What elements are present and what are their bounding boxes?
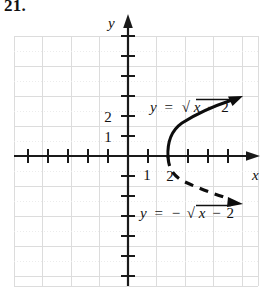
curve-lower-branch [168, 157, 243, 207]
y-tick-label-1: 1 [104, 129, 112, 145]
upper-label-equals: = [164, 99, 172, 115]
upper-label-y: y [148, 99, 157, 115]
radical-icon-lower: √ [187, 205, 196, 221]
y-tick-label-2: 2 [104, 109, 112, 125]
lower-label-sign: − [172, 205, 180, 221]
graph-figure: y x 2 1 1 2 y = √ x − 2 y = − √ x [0, 0, 270, 294]
lower-label-radicand-var: x [198, 205, 206, 221]
upper-label-num: 2 [221, 99, 229, 115]
lower-label-y: y [138, 205, 147, 221]
y-axis-label: y [106, 15, 115, 31]
upper-label-radicand-var: x [193, 99, 201, 115]
lower-curve-label: y = − √ x − 2 [138, 205, 234, 221]
upper-curve-label: y = √ x − 2 [148, 99, 230, 115]
x-tick-label-2: 2 [166, 168, 174, 184]
lower-curve-label-text: y = − √ x − 2 [138, 205, 234, 221]
radical-icon: √ [182, 99, 191, 115]
problem-number: 21. [4, 0, 26, 16]
y-axis [121, 14, 135, 286]
x-tick-label-1: 1 [143, 167, 151, 183]
upper-label-minus: − [207, 99, 215, 115]
upper-curve-label-text: y = √ x − 2 [148, 99, 229, 115]
lower-label-equals: = [154, 205, 162, 221]
x-axis [14, 149, 260, 163]
x-axis-label: x [251, 167, 259, 183]
lower-label-minus: − [212, 205, 220, 221]
lower-label-num: 2 [226, 205, 234, 221]
grid [14, 36, 258, 286]
